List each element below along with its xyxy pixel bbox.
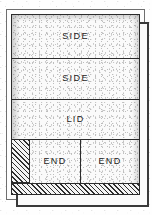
- panel-label-side-2: SIDE: [62, 74, 89, 83]
- panel-end-1: END: [30, 139, 80, 183]
- panel-lid: LID: [11, 99, 140, 139]
- panel-label-end-2: END: [98, 157, 121, 166]
- panel-side-2: SIDE: [11, 58, 140, 99]
- illustration-plate: SIDE SIDE LID END END: [0, 0, 152, 215]
- waste-region-left: [11, 139, 30, 183]
- panel-side-1: SIDE: [11, 14, 140, 58]
- stock-board: SIDE SIDE LID END END: [11, 14, 140, 195]
- panel-label-lid: LID: [66, 115, 84, 124]
- panel-label-end-1: END: [43, 157, 66, 166]
- panel-label-side-1: SIDE: [62, 32, 89, 41]
- panel-end-2: END: [80, 139, 140, 183]
- waste-region-bottom: [11, 183, 140, 195]
